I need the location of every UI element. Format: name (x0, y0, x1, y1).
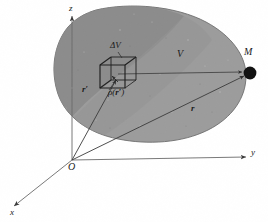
charge-density-label: ρ(r′) (108, 88, 124, 97)
volume-region-label: V (177, 49, 183, 59)
filled-dot-icon (244, 67, 257, 80)
physics-diagram-figure: z y x O V ΔV M r′ r ρ(r′) (0, 0, 268, 222)
field-vector-label: r (191, 104, 195, 113)
y-axis-label: y (251, 148, 255, 157)
diagram-canvas (0, 0, 268, 222)
source-vector-label: r′ (82, 85, 88, 94)
origin-label: O (68, 162, 75, 172)
z-axis-label: z (69, 4, 73, 13)
density-close-paren: ) (121, 87, 124, 97)
x-axis-label: x (10, 208, 14, 217)
volume-element-label: ΔV (110, 41, 121, 50)
source-vector-prime: ′ (86, 84, 88, 94)
field-point-marker (244, 67, 257, 80)
field-point-label: M (244, 47, 252, 57)
